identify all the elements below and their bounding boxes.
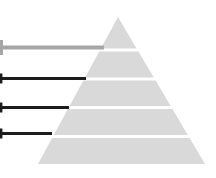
pyramid-diagram bbox=[0, 0, 216, 178]
pyramid-level-2 bbox=[85, 52, 154, 78]
pyramid-level-3 bbox=[70, 81, 171, 107]
pyramid-level-5 bbox=[38, 138, 205, 164]
pyramid-level-1 bbox=[101, 17, 137, 49]
pyramid-diagram-canvas bbox=[0, 0, 216, 178]
pyramid-level-4 bbox=[54, 109, 188, 135]
